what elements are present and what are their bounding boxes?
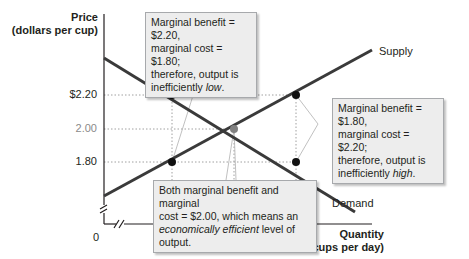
y-tick-1-80: 1.80	[57, 155, 97, 167]
y-axis-break-icon	[100, 205, 107, 213]
y-axis-title-line1: Price	[0, 11, 98, 24]
callout-inefficiently-high: Marginal benefit = $1.80, marginal cost …	[332, 98, 444, 184]
callout-high-line4: inefficiently high.	[338, 167, 438, 180]
callout-efficient-line1: Both marginal benefit and marginal	[159, 184, 311, 210]
callout-efficient-line3: economically efficient level of output.	[159, 223, 311, 249]
callout-low-line3: therefore, output is	[151, 68, 251, 81]
callout-low-line1: Marginal benefit = $2.20,	[151, 16, 251, 42]
callout-high-line4a: inefficiently	[338, 167, 393, 179]
y-axis-title: Price (dollars per cup)	[0, 11, 98, 37]
callout-low-emphasis: low	[206, 81, 222, 93]
point-demand-16000	[292, 158, 300, 166]
supply-label: Supply	[379, 45, 413, 57]
y-tick-2-00: 2.00	[57, 122, 97, 134]
origin-label: 0	[93, 231, 99, 243]
callout-efficient: Both marginal benefit and marginal cost …	[153, 180, 317, 253]
point-supply-16000	[292, 91, 300, 99]
callout-high-line3: therefore, output is	[338, 154, 438, 167]
callout-low-line4c: .	[221, 81, 224, 93]
callout-high-emphasis: high	[393, 167, 413, 179]
demand-label: Demand	[332, 197, 374, 209]
callout-low-line2: marginal cost = $1.80;	[151, 42, 251, 68]
y-axis-title-line2: (dollars per cup)	[0, 24, 98, 37]
equilibrium-point	[230, 125, 238, 133]
callout-high-line4c: .	[413, 167, 416, 179]
callout-high-line2: marginal cost = $2.20;	[338, 128, 438, 154]
point-supply-14000	[168, 158, 176, 166]
callout-low-line4a: inefficiently	[151, 81, 206, 93]
callout-low-line4: inefficiently low.	[151, 81, 251, 94]
callout-efficient-line2: cost = $2.00, which means an	[159, 210, 311, 223]
callout-inefficiently-low: Marginal benefit = $2.20, marginal cost …	[145, 12, 257, 98]
y-tick-2-20: $2.20	[57, 88, 97, 100]
callout-efficient-emphasis: economically efficient	[159, 223, 259, 235]
callout-high-line1: Marginal benefit = $1.80,	[338, 102, 438, 128]
